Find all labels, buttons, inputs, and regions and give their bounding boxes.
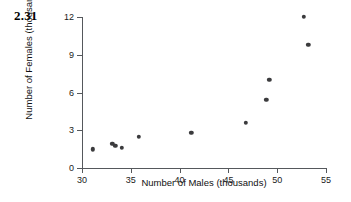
data-point <box>244 120 248 124</box>
x-tick-mark <box>277 168 278 173</box>
x-axis-title: Number of Males (thousands) <box>82 177 326 188</box>
y-tick-mark <box>77 130 82 131</box>
data-point <box>301 15 305 19</box>
data-point <box>306 42 310 46</box>
data-point <box>267 78 271 82</box>
y-tick-label: 3 <box>69 126 74 135</box>
x-tick-mark <box>82 168 83 173</box>
y-tick-mark <box>77 55 82 56</box>
data-point <box>189 131 193 135</box>
x-tick-mark <box>228 168 229 173</box>
data-point <box>120 146 124 150</box>
data-point <box>136 134 140 138</box>
x-tick-mark <box>180 168 181 173</box>
data-point <box>91 147 95 151</box>
y-tick-mark <box>77 17 82 18</box>
y-tick-label: 6 <box>69 88 74 97</box>
y-axis-title: Number of Females (thousands) <box>23 0 34 131</box>
y-tick-mark <box>77 93 82 94</box>
x-tick-mark <box>131 168 132 173</box>
y-tick-label: 9 <box>69 50 74 59</box>
y-axis-spine <box>82 17 83 168</box>
plot-area: 036912 303540455055 <box>82 17 326 168</box>
y-tick-label: 0 <box>69 164 74 173</box>
data-point <box>113 144 117 148</box>
x-axis-spine <box>82 168 326 169</box>
scatter-plot-figure: 2.31 036912 303540455055 Number of Males… <box>0 0 351 202</box>
data-point <box>264 98 268 102</box>
x-tick-mark <box>326 168 327 173</box>
y-tick-label: 12 <box>64 13 74 22</box>
